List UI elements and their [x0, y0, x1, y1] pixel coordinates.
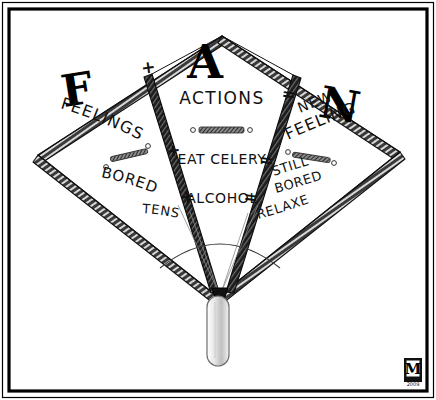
panel-letter-a: A: [186, 35, 224, 89]
signature-monogram: M: [405, 360, 422, 378]
equals-sign-1: =: [280, 83, 297, 105]
equals-sign-3: =: [242, 186, 259, 208]
plus-sign-3: +: [179, 185, 196, 207]
panel-heading-actions: ACTIONS: [179, 88, 264, 108]
plus-sign-1: +: [140, 56, 157, 78]
cartoon-canvas: F FEELINGS BORED TENSE A ACTIONS EAT CEL…: [0, 0, 436, 400]
fan-illustration: F FEELINGS BORED TENSE A ACTIONS EAT CEL…: [0, 0, 436, 400]
signature-year: 2009: [407, 381, 420, 387]
plus-sign-2: +: [165, 139, 182, 161]
artist-signature: M 2009: [404, 358, 422, 387]
fan-handle: [207, 296, 229, 366]
panel-item-eat-celery: EAT CELERY: [178, 151, 267, 167]
equals-sign-2: =: [258, 149, 275, 171]
divider-center: [191, 127, 253, 133]
